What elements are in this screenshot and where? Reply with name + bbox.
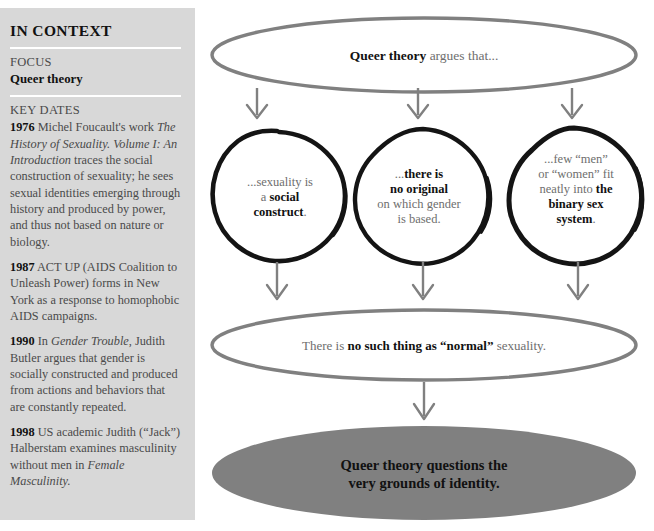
key-date-title-italic: Gender Trouble — [51, 334, 129, 348]
emphasis-text: construct — [253, 205, 304, 219]
plain-text: or “women” fit — [538, 167, 614, 181]
key-date-year: 1990 — [10, 334, 35, 348]
emphasis-text: Queer theory — [350, 48, 427, 63]
text-line: Queer theory argues that... — [350, 48, 499, 63]
focus-label: FOCUS — [10, 55, 181, 71]
conclusion-ellipse-shape — [212, 426, 636, 520]
key-date-entry: 1976 Michel Foucault's work The History … — [10, 119, 181, 250]
focus-value: Queer theory — [10, 72, 181, 88]
emphasis-text: no such thing as “normal” — [347, 338, 493, 353]
plain-text: ...sexuality is — [247, 175, 313, 189]
plain-text: ...few “men” — [544, 152, 608, 166]
emphasis-text: no original — [390, 182, 449, 196]
text-line: or “women” fit — [538, 167, 614, 181]
arrow-circle-2-to-bottom — [413, 262, 433, 299]
page-root: IN CONTEXT FOCUS Queer theory KEY DATES … — [0, 0, 654, 531]
key-date-year: 1998 — [10, 425, 35, 439]
arrow-circle-3-to-bottom — [568, 262, 588, 299]
text-line: very grounds of identity. — [348, 475, 499, 491]
key-date-entry: 1987 ACT UP (AIDS Coalition to Unleash P… — [10, 259, 181, 324]
emphasis-text: Queer theory questions the — [341, 457, 508, 473]
key-date-text: Michel Foucault's work — [35, 120, 157, 134]
key-date-text: traces the social construction of sexual… — [10, 153, 180, 249]
key-dates-list: 1976 Michel Foucault's work The History … — [10, 119, 181, 489]
text-line: system. — [556, 212, 595, 226]
text-line: a social — [261, 190, 300, 204]
text-line: There is no such thing as “normal” sexua… — [302, 338, 546, 353]
sidebar-title: IN CONTEXT — [10, 22, 181, 39]
key-date-year: 1987 — [10, 260, 35, 274]
plain-text: is based. — [397, 212, 440, 226]
plain-text: . — [592, 212, 595, 226]
plain-text: argues that... — [426, 48, 498, 63]
arrow-bottom-to-conclusion — [414, 382, 434, 419]
plain-text: ... — [395, 167, 404, 181]
emphasis-text: there is — [404, 167, 443, 181]
emphasis-text: social — [269, 190, 299, 204]
text-line: is based. — [397, 212, 440, 226]
text-line: binary sex — [548, 197, 604, 211]
text-line: on which gender — [377, 197, 461, 211]
sidebar-divider-2 — [10, 95, 181, 97]
plain-text: a — [261, 190, 270, 204]
key-date-entry: 1998 US academic Judith (“Jack”) Halbers… — [10, 424, 181, 489]
top-ellipse-text: Queer theory argues that... — [350, 48, 499, 63]
arrow-top-to-circle-1 — [247, 88, 267, 118]
plain-text: . — [303, 205, 306, 219]
key-date-year: 1976 — [10, 120, 35, 134]
text-line: ...sexuality is — [247, 175, 313, 189]
text-line: Queer theory questions the — [341, 457, 508, 473]
emphasis-text: binary sex — [548, 197, 604, 211]
queer-theory-flow-diagram: Queer theory argues that... ...sexuality… — [195, 0, 654, 531]
key-date-text: In — [35, 334, 51, 348]
key-dates-label: KEY DATES — [10, 103, 181, 119]
in-context-sidebar: IN CONTEXT FOCUS Queer theory KEY DATES … — [0, 8, 195, 520]
text-line: construct. — [253, 205, 306, 219]
key-date-entry: 1990 In Gender Trouble, Judith Butler ar… — [10, 333, 181, 415]
plain-text: neatly into — [540, 182, 596, 196]
text-line: ...there is — [395, 167, 444, 181]
sidebar-divider-1 — [10, 47, 181, 49]
arrow-top-to-circle-3 — [562, 88, 582, 118]
text-line: ...few “men” — [544, 152, 608, 166]
emphasis-text: system — [556, 212, 593, 226]
arrow-circle-1-to-bottom — [267, 262, 287, 299]
emphasis-text: the — [596, 182, 613, 196]
text-line: no original — [390, 182, 449, 196]
key-date-text: ACT UP (AIDS Coalition to Unleash Power)… — [10, 260, 179, 323]
bottom-ellipse-text: There is no such thing as “normal” sexua… — [302, 338, 546, 353]
plain-text: on which gender — [377, 197, 461, 211]
text-line: neatly into the — [540, 182, 613, 196]
emphasis-text: very grounds of identity. — [348, 475, 499, 491]
plain-text: There is — [302, 338, 347, 353]
plain-text: sexuality. — [493, 338, 546, 353]
